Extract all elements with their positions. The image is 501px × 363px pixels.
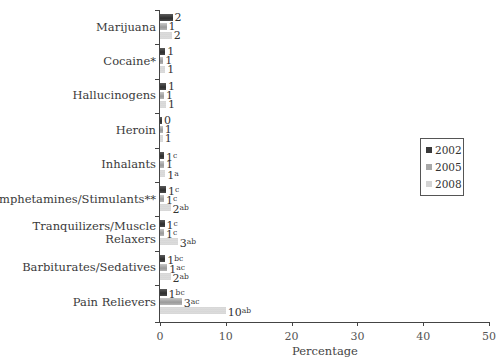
bar-2008 [160, 66, 165, 73]
bar-2008 [160, 32, 172, 39]
x-tick [292, 322, 293, 326]
category-label: Marijuana [96, 21, 156, 34]
bar-2002 [160, 289, 167, 296]
bar-2008 [160, 307, 226, 314]
x-tick-label: 40 [416, 330, 430, 343]
category-label: Pain Relievers [73, 296, 156, 309]
bar-2008 [160, 204, 171, 211]
x-axis-title: Percentage [292, 344, 358, 358]
legend-swatch-icon [426, 147, 432, 153]
bar-2005 [160, 126, 163, 133]
bar-2005 [160, 161, 164, 168]
x-tick [489, 322, 490, 326]
bar-2005 [160, 57, 163, 64]
legend-item-2005: 2005 [426, 161, 462, 173]
category-label: Cocaine* [103, 55, 156, 68]
legend-swatch-icon [426, 164, 432, 170]
value-label: 2 [174, 31, 181, 41]
x-tick-label: 10 [219, 330, 233, 343]
bar-2005 [160, 229, 164, 236]
bar-2005 [160, 298, 182, 305]
x-tick-label: 50 [482, 330, 496, 343]
category-label: Barbiturates/Sedatives [22, 261, 156, 274]
y-tick [155, 216, 160, 217]
x-axis [159, 322, 490, 323]
bar-2008 [160, 238, 178, 245]
legend-item-2002: 2002 [426, 144, 462, 156]
bar-2008 [160, 135, 163, 142]
bar-2008 [160, 273, 171, 280]
x-tick [226, 322, 227, 326]
bar-2005 [160, 264, 167, 271]
bar-2002 [160, 255, 165, 262]
category-label: Hallucinogens [72, 89, 156, 102]
legend-label: 2002 [435, 144, 462, 156]
bar-2002 [160, 220, 165, 227]
value-label: 3ab [180, 237, 196, 249]
bar-2008 [160, 101, 166, 108]
category-label: Inhalants [101, 158, 156, 171]
category-label: Tranquilizers/MuscleRelaxers [33, 220, 156, 246]
category-label: Amphetamines/Stimulants** [0, 193, 156, 206]
bar-chart: Percentage 2002 2005 2008 Marijuana212Co… [0, 0, 501, 363]
y-tick [155, 251, 160, 252]
value-label: 2ab [173, 203, 189, 215]
bar-2008 [160, 170, 165, 177]
bar-2005 [160, 195, 164, 202]
x-tick [160, 322, 161, 326]
legend-swatch-icon [426, 181, 432, 187]
value-label: 2ab [173, 272, 189, 284]
value-label: 1a [167, 169, 178, 181]
bar-2005 [160, 92, 164, 99]
value-label: 10ab [228, 306, 251, 318]
y-tick [155, 285, 160, 286]
x-tick [357, 322, 358, 326]
legend-label: 2005 [435, 161, 462, 173]
legend: 2002 2005 2008 [420, 138, 464, 196]
bar-2005 [160, 23, 167, 30]
legend-label: 2008 [435, 178, 462, 190]
x-tick-label: 20 [285, 330, 299, 343]
value-label: 1 [167, 65, 174, 75]
bar-2002 [160, 117, 162, 124]
category-label: Heroin [116, 124, 156, 137]
bar-2002 [160, 152, 164, 159]
y-tick [155, 79, 160, 80]
y-tick [155, 182, 160, 183]
value-label: 1 [165, 134, 172, 144]
x-tick-label: 0 [157, 330, 164, 343]
x-tick [423, 322, 424, 326]
y-tick [155, 44, 160, 45]
y-tick [155, 10, 160, 11]
legend-item-2008: 2008 [426, 178, 462, 190]
x-tick-label: 30 [350, 330, 364, 343]
value-label: 1 [168, 100, 175, 110]
y-tick [155, 148, 160, 149]
bar-2002 [160, 186, 166, 193]
y-tick [155, 113, 160, 114]
